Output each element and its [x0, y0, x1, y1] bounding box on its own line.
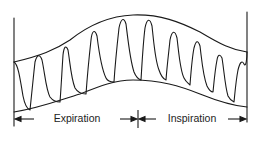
- pulse-waveform: [14, 19, 247, 110]
- expiration-label: Expiration: [54, 112, 101, 124]
- waveform-diagram: [0, 0, 267, 141]
- arrowhead-left-icon: [139, 117, 145, 122]
- arrowhead-right-icon: [240, 117, 246, 122]
- inspiration-label: Inspiration: [168, 112, 216, 124]
- arrowhead-left-icon: [15, 117, 21, 122]
- arrowhead-right-icon: [131, 117, 137, 122]
